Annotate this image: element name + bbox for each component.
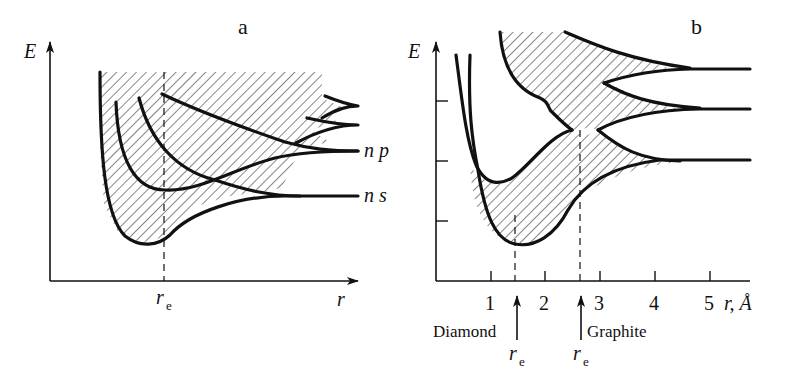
- x-tick-label-5: 5: [704, 292, 714, 314]
- diamond-re-label: r: [509, 342, 517, 364]
- diamond-label: Diamond: [433, 322, 497, 341]
- panel-a-label: a: [238, 14, 248, 39]
- band-region-a: [100, 72, 344, 243]
- upper-band-region-b: [500, 32, 680, 130]
- re-label-a: r: [156, 286, 164, 308]
- graphite-re-label: r: [573, 342, 581, 364]
- ns-label: n s: [364, 184, 387, 206]
- x-tick-label-1: 1: [485, 292, 495, 314]
- x-axis-label-a: r: [337, 288, 345, 310]
- band-diagram-figure: a E r r e n p n s: [0, 0, 789, 381]
- x-tick-label-4: 4: [649, 292, 659, 314]
- x-tick-label-3: 3: [594, 292, 604, 314]
- graphite-label: Graphite: [587, 322, 646, 341]
- re-subscript-a: e: [166, 298, 172, 313]
- y-axis-label-b: E: [407, 40, 420, 62]
- lower-band-region-b: [470, 130, 680, 245]
- graphite-re-subscript: e: [583, 354, 589, 369]
- panel-b-label: b: [691, 14, 702, 39]
- diamond-re-subscript: e: [519, 354, 525, 369]
- y-axis-label-a: E: [23, 40, 36, 62]
- panel-b: 1 2 3 4 5 r, Å b E Diamond r e Graphite …: [407, 14, 753, 369]
- x-axis-label-b: r, Å: [724, 292, 753, 314]
- x-tick-label-2: 2: [539, 292, 549, 314]
- panel-a: a E r r e n p n s: [23, 14, 389, 313]
- np-label: n p: [364, 139, 389, 162]
